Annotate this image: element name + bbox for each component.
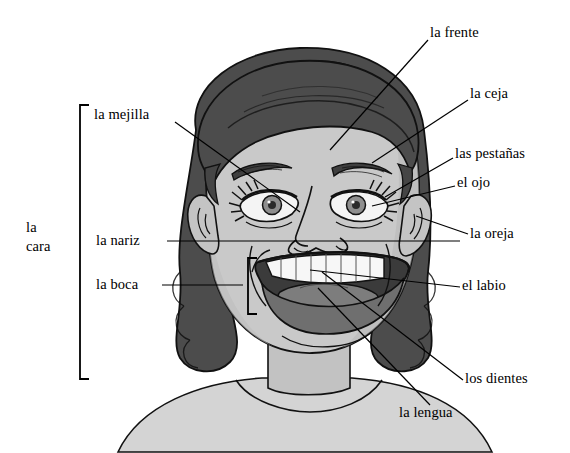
label-la-boca: la boca <box>96 276 138 293</box>
label-la-ceja: la ceja <box>470 85 508 102</box>
label-los-dientes: los dientes <box>465 370 528 387</box>
label-el-ojo: el ojo <box>457 174 490 191</box>
label-la-cara-line2: cara <box>26 238 51 254</box>
face-anatomy-diagram: la cara la mejilla la nariz la boca la f… <box>0 0 570 453</box>
bracket-la-cara <box>80 105 89 379</box>
label-la-cara: la cara <box>26 218 72 256</box>
label-el-labio: el labio <box>462 277 506 294</box>
teeth <box>266 254 384 283</box>
label-la-frente: la frente <box>430 24 479 41</box>
label-las-pestanas: las pestañas <box>455 145 525 162</box>
label-la-oreja: la oreja <box>470 225 514 242</box>
label-la-cara-line1: la <box>26 219 37 235</box>
label-la-lengua: la lengua <box>399 404 453 421</box>
label-la-mejilla: la mejilla <box>94 106 149 123</box>
label-la-nariz: la nariz <box>96 232 140 249</box>
